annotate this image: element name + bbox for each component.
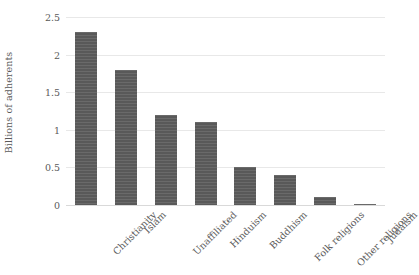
x-axis-tick-label: Unaffiliated [190,209,238,257]
y-axis-tick-label: 1.5 [20,87,60,98]
y-axis-tick-label: 1 [20,124,60,135]
plot-area [66,17,385,205]
bar-slot [265,17,305,205]
bar[interactable] [314,197,336,205]
bar-slot [345,17,385,205]
bar[interactable] [195,122,217,205]
bar[interactable] [75,32,97,205]
y-axis-title-text: Billions of adherents [4,52,15,154]
bar-slot [106,17,146,205]
bar-slot [146,17,186,205]
y-axis-tick-label: 2 [20,49,60,60]
bar-chart: Billions of adherents 00.511.522.5 Chris… [0,0,419,275]
y-axis-tick-label: 2.5 [20,12,60,23]
x-axis-tick-label: Buddhism [268,209,310,251]
bar-slot [226,17,266,205]
bar[interactable] [115,70,137,205]
bar-slot [186,17,226,205]
x-axis-tick-labels: ChristianityIslamUnaffiliatedHinduismBud… [66,205,385,275]
bar-slot [66,17,106,205]
bar[interactable] [234,167,256,205]
bar[interactable] [155,115,177,205]
y-axis-tick-label: 0 [20,200,60,211]
bar-slot [305,17,345,205]
bar[interactable] [274,175,296,205]
bars-layer [66,17,385,205]
y-axis-title: Billions of adherents [0,0,18,205]
y-axis-tick-label: 0.5 [20,162,60,173]
